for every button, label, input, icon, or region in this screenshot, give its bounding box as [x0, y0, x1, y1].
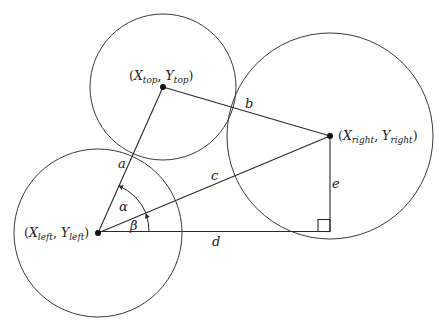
point-right — [327, 133, 333, 139]
point-top — [160, 84, 166, 90]
segment-a — [98, 87, 163, 233]
triangulation-diagram: a b c d e α β (Xtop, Ytop) (Xleft, Yleft… — [0, 0, 445, 334]
right-angle-marker — [318, 220, 330, 232]
label-a: a — [118, 156, 126, 171]
label-e: e — [332, 176, 340, 191]
label-b: b — [245, 96, 253, 111]
segment-b — [163, 87, 330, 136]
coord-label-left: (Xleft, Yleft) — [24, 225, 89, 242]
label-beta: β — [129, 218, 138, 233]
angle-beta-arc — [146, 214, 149, 232]
point-left — [95, 230, 101, 236]
label-c: c — [211, 168, 219, 183]
coord-label-right: (Xright, Yright) — [338, 128, 418, 145]
coord-label-top: (Xtop, Ytop) — [129, 68, 194, 85]
label-d: d — [212, 234, 220, 249]
label-alpha: α — [119, 199, 128, 214]
